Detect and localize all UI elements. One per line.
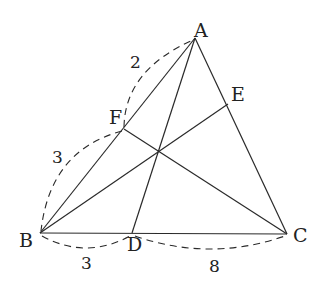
label-c: C: [293, 224, 308, 246]
label-b: B: [19, 229, 33, 251]
measure-fb: 3: [52, 147, 63, 167]
label-a: A: [193, 19, 208, 41]
label-d: D: [127, 233, 142, 255]
measure-bd: 3: [81, 253, 92, 273]
arc-bd: [42, 236, 130, 248]
cevian-be: [40, 104, 228, 233]
label-e: E: [231, 83, 245, 105]
side-ab: [40, 38, 195, 233]
cevian-ad: [132, 38, 195, 233]
label-f: F: [109, 106, 122, 128]
triangle-diagram: A B C D E F 2 3 3 8: [0, 0, 324, 288]
measure-af: 2: [130, 52, 141, 72]
measure-dc: 8: [209, 256, 220, 276]
side-bc: [40, 233, 287, 234]
arc-dc: [135, 236, 285, 249]
